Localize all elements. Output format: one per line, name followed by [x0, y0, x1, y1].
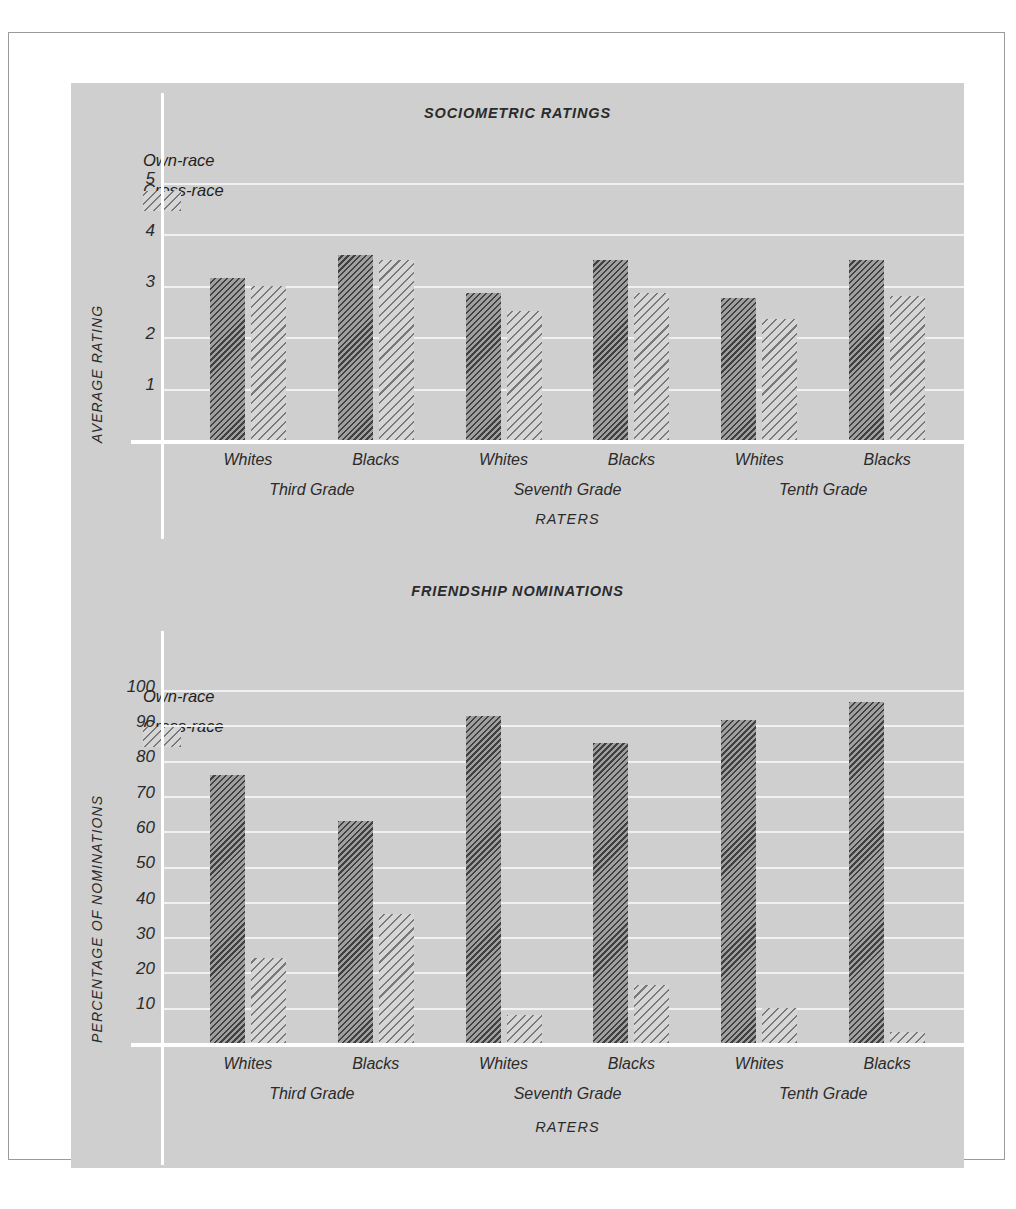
x-axis-tick-label: Whites — [695, 451, 823, 469]
bar-own-race — [210, 775, 245, 1043]
x-axis-group-label: Tenth Grade — [695, 1085, 951, 1103]
x-axis-group-label: Third Grade — [184, 1085, 440, 1103]
y-axis-tick-label: 50 — [136, 853, 155, 873]
bar-cross-race — [634, 985, 669, 1043]
bar-own-race — [466, 293, 501, 440]
y-axis-tick-label: 2 — [146, 324, 155, 344]
x-axis-tick-label: Blacks — [823, 1055, 951, 1073]
bar-own-race — [338, 255, 373, 440]
bar-own-race — [210, 278, 245, 440]
bar-cross-race — [379, 914, 414, 1043]
legend-item-own-race: Own-race — [143, 151, 224, 170]
y-axis-tick-label: 60 — [136, 818, 155, 838]
gridline — [161, 867, 964, 869]
y-axis-tick-label: 30 — [136, 924, 155, 944]
bar-own-race — [849, 702, 884, 1043]
gridline — [161, 725, 964, 727]
x-axis-baseline — [131, 440, 964, 444]
gridline — [161, 831, 964, 833]
x-axis-label-raters: RATERS — [184, 511, 951, 527]
gridline — [161, 796, 964, 798]
x-axis-tick-label: Whites — [440, 1055, 568, 1073]
x-axis-tick-label: Blacks — [568, 1055, 696, 1073]
bar-cross-race — [379, 260, 414, 440]
x-axis-baseline — [131, 1043, 964, 1047]
y-axis-tick-label: 1 — [146, 375, 155, 395]
bar-own-race — [593, 743, 628, 1043]
x-axis-tick-label: Whites — [184, 1055, 312, 1073]
bar-cross-race — [251, 958, 286, 1043]
legend-friendship: Own-race Cross-race — [143, 687, 224, 747]
y-axis-label-average-rating: AVERAGE RATING — [89, 305, 105, 443]
y-axis-tick-label: 100 — [127, 677, 155, 697]
y-axis-tick-label: 3 — [146, 272, 155, 292]
gridline — [161, 761, 964, 763]
y-axis-tick-label: 40 — [136, 889, 155, 909]
x-axis-tick-label: Whites — [440, 451, 568, 469]
bar-cross-race — [507, 311, 542, 440]
x-axis-group-label: Seventh Grade — [440, 481, 696, 499]
y-axis-tick-label: 5 — [146, 169, 155, 189]
y-axis-tick-label: 80 — [136, 747, 155, 767]
x-axis-tick-label: Blacks — [312, 1055, 440, 1073]
bar-cross-race — [890, 1032, 925, 1043]
bar-cross-race — [634, 293, 669, 440]
gridline — [161, 902, 964, 904]
y-axis-tick-label: 10 — [136, 994, 155, 1014]
y-axis-tick-label: 70 — [136, 783, 155, 803]
bar-cross-race — [251, 286, 286, 441]
bar-own-race — [338, 821, 373, 1043]
bar-cross-race — [762, 319, 797, 440]
y-axis-label-percentage-of-nominations: PERCENTAGE OF NOMINATIONS — [89, 795, 105, 1043]
x-axis-group-label: Third Grade — [184, 481, 440, 499]
page-frame: SOCIOMETRIC RATINGS AVERAGE RATING RATER… — [8, 32, 1005, 1160]
legend-label-own-race: Own-race — [143, 151, 215, 170]
chart-title-sociometric: SOCIOMETRIC RATINGS — [71, 105, 964, 121]
y-axis-tick-label: 90 — [136, 712, 155, 732]
gridline — [161, 690, 964, 692]
x-axis-label-raters: RATERS — [184, 1119, 951, 1135]
y-axis-line — [161, 631, 164, 1165]
bar-own-race — [466, 716, 501, 1043]
y-axis-line — [161, 93, 164, 539]
x-axis-tick-label: Whites — [184, 451, 312, 469]
x-axis-tick-label: Blacks — [312, 451, 440, 469]
x-axis-tick-label: Blacks — [568, 451, 696, 469]
bar-own-race — [593, 260, 628, 440]
y-axis-tick-label: 4 — [146, 221, 155, 241]
bar-own-race — [721, 720, 756, 1043]
figure-panel: SOCIOMETRIC RATINGS AVERAGE RATING RATER… — [71, 83, 964, 1168]
x-axis-group-label: Tenth Grade — [695, 481, 951, 499]
gridline — [161, 937, 964, 939]
chart-title-friendship: FRIENDSHIP NOMINATIONS — [71, 583, 964, 599]
y-axis-tick-label: 20 — [136, 959, 155, 979]
bar-cross-race — [762, 1008, 797, 1043]
gridline — [161, 183, 964, 185]
x-axis-tick-label: Whites — [695, 1055, 823, 1073]
bar-cross-race — [890, 296, 925, 440]
x-axis-group-label: Seventh Grade — [440, 1085, 696, 1103]
bar-own-race — [721, 298, 756, 440]
x-axis-tick-label: Blacks — [823, 451, 951, 469]
bar-cross-race — [507, 1015, 542, 1043]
gridline — [161, 234, 964, 236]
bar-own-race — [849, 260, 884, 440]
legend-sociometric: Own-race Cross-race — [143, 151, 224, 211]
